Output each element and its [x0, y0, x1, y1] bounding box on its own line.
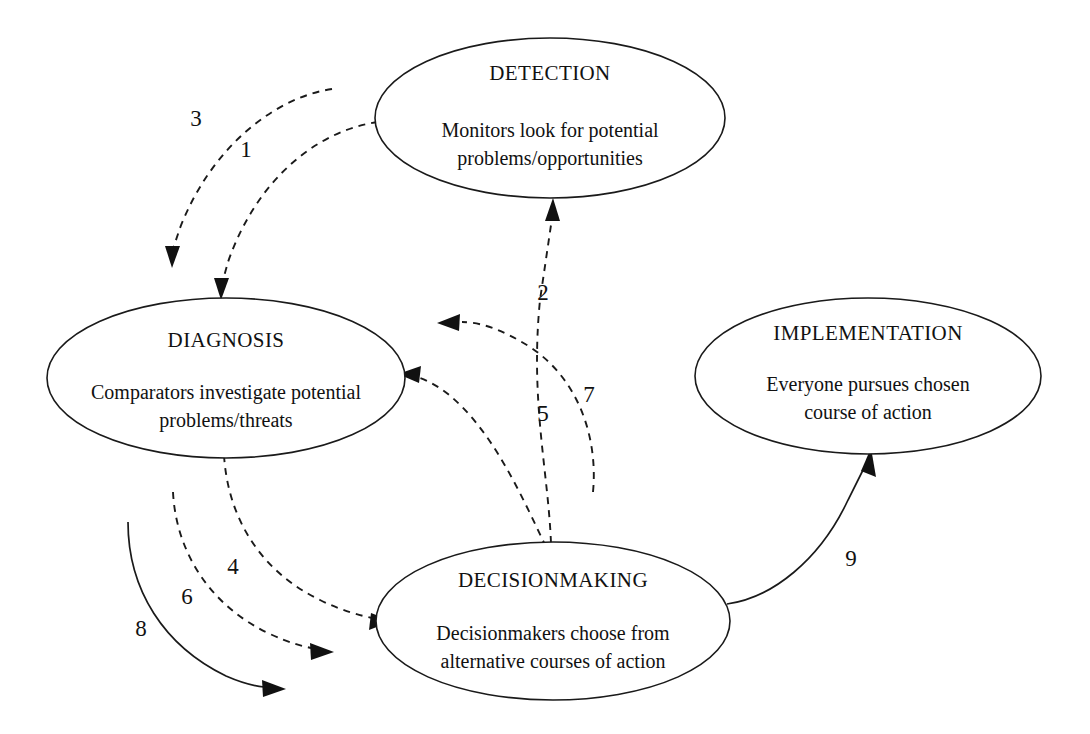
edge-4: 4	[224, 455, 392, 630]
edge-3-arrowhead	[165, 246, 180, 268]
process-diagram: 3 1 2 7 5 4	[0, 0, 1090, 734]
detection-desc-line1: Monitors look for potential	[441, 119, 659, 142]
diagnosis-desc-line1: Comparators investigate potential	[91, 381, 361, 404]
edge-3-label: 3	[190, 106, 202, 131]
node-implementation[interactable]: IMPLEMENTATION Everyone pursues chosen c…	[695, 298, 1041, 454]
decisionmaking-title: DECISIONMAKING	[458, 568, 648, 592]
edge-7-arrowhead	[437, 314, 460, 331]
edge-5: 5	[398, 366, 549, 547]
decisionmaking-desc-line2: alternative courses of action	[441, 650, 666, 672]
edge-2-label: 2	[537, 280, 549, 305]
edge-7-path	[462, 322, 594, 492]
implementation-desc-line1: Everyone pursues chosen	[766, 373, 969, 396]
edge-2-path	[537, 225, 551, 543]
edge-7: 7	[437, 314, 595, 492]
edge-3: 3	[165, 89, 332, 268]
edge-4-path	[224, 455, 372, 618]
edge-6-path	[173, 492, 312, 648]
edge-1-label: 1	[240, 137, 252, 162]
edge-6-label: 6	[181, 584, 193, 609]
diagnosis-ellipse[interactable]	[47, 298, 405, 458]
edge-8-path	[128, 522, 264, 687]
node-decisionmaking[interactable]: DECISIONMAKING Decisionmakers choose fro…	[376, 542, 730, 700]
edge-8-arrowhead	[262, 680, 286, 697]
edge-7-label: 7	[583, 382, 595, 407]
node-detection[interactable]: DETECTION Monitors look for potential pr…	[375, 38, 725, 198]
diagnosis-desc-line2: problems/threats	[159, 409, 293, 432]
edge-2-arrowhead	[545, 198, 560, 221]
edge-8: 8	[128, 522, 286, 697]
edge-5-label: 5	[537, 401, 549, 426]
edge-9: 9	[727, 448, 876, 604]
edge-8-label: 8	[135, 616, 147, 641]
diagram-canvas: 3 1 2 7 5 4	[0, 0, 1090, 734]
implementation-desc-line2: course of action	[804, 401, 932, 423]
edge-9-label: 9	[845, 546, 857, 571]
diagnosis-title: DIAGNOSIS	[168, 328, 285, 352]
detection-desc-line2: problems/opportunities	[457, 147, 643, 170]
decisionmaking-ellipse[interactable]	[376, 542, 730, 700]
detection-title: DETECTION	[489, 61, 610, 85]
decisionmaking-desc-line1: Decisionmakers choose from	[436, 622, 670, 644]
edge-6: 6	[173, 492, 334, 660]
edge-6-arrowhead	[310, 643, 334, 660]
edge-4-label: 4	[227, 554, 239, 579]
edge-5-path	[420, 378, 546, 547]
edge-9-path	[727, 470, 863, 604]
edge-1: 1	[214, 122, 378, 300]
node-diagnosis[interactable]: DIAGNOSIS Comparators investigate potent…	[47, 298, 405, 458]
edge-1-arrowhead	[214, 278, 229, 300]
implementation-title: IMPLEMENTATION	[773, 321, 962, 345]
